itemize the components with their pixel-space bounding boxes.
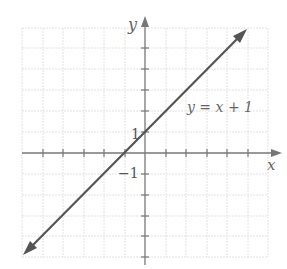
tick-label-1: 1 (131, 126, 140, 142)
axes (22, 20, 276, 265)
graph: y x 1 −1 y = x + 1 (0, 0, 287, 269)
y-axis-label: y (127, 15, 138, 34)
function-line (23, 29, 247, 255)
y-axis-arrow-icon (141, 16, 149, 27)
equation-label: y = x + 1 (186, 99, 253, 115)
x-axis-label: x (267, 156, 276, 174)
tick-label-neg1: −1 (118, 165, 139, 181)
